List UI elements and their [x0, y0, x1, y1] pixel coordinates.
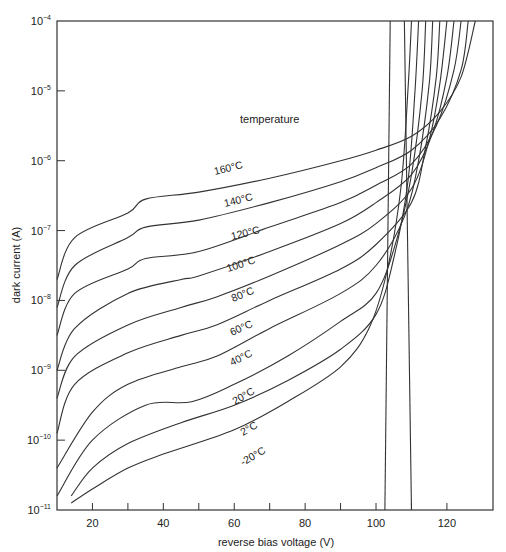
curve-120c [57, 21, 461, 335]
x-tick-label: 60 [228, 517, 240, 529]
curve-labels: 160°C140°C120°C100°C80°C60°C40°C20°C2°C-… [213, 158, 268, 468]
x-tick-label: 40 [157, 517, 169, 529]
curve-label: 60°C [228, 317, 255, 338]
curve-label: 40°C [228, 347, 255, 368]
y-tick-label: 10−8 [31, 293, 51, 306]
x-tick-label: 80 [299, 517, 311, 529]
y-tick-label: 10−10 [27, 433, 51, 446]
curve-label: 2°C [238, 418, 260, 437]
breakdown-line [385, 21, 390, 510]
curve-label: 140°C [223, 190, 255, 209]
y-tick-label: 10−5 [31, 84, 51, 97]
curves [57, 21, 475, 510]
curve-label: 100°C [225, 253, 257, 274]
y-axis-title: dark current (A) [10, 227, 22, 303]
y-tick-label: 10−11 [27, 503, 51, 516]
curve-label: 20°C [230, 384, 257, 406]
curve-label: -20°C [238, 444, 268, 468]
x-tick-label: 120 [438, 517, 456, 529]
x-tick-label: 20 [86, 517, 98, 529]
curve-label: 80°C [229, 284, 256, 304]
y-tick-label: 10−4 [31, 14, 51, 27]
dark-current-chart: 2040608010012010−410−510−610−710−810−910… [0, 0, 506, 552]
x-axis-title: reverse bias voltage (V) [218, 536, 334, 548]
temperature-annotation: temperature [240, 113, 299, 125]
curve-label: 160°C [213, 158, 245, 177]
y-tick-label: 10−9 [31, 363, 51, 376]
curve-label: 120°C [230, 223, 262, 242]
curve-100c [57, 21, 454, 370]
x-tick-label: 100 [367, 517, 385, 529]
y-tick-label: 10−7 [31, 224, 51, 237]
y-tick-label: 10−6 [31, 154, 51, 167]
curve-160c [57, 21, 475, 280]
